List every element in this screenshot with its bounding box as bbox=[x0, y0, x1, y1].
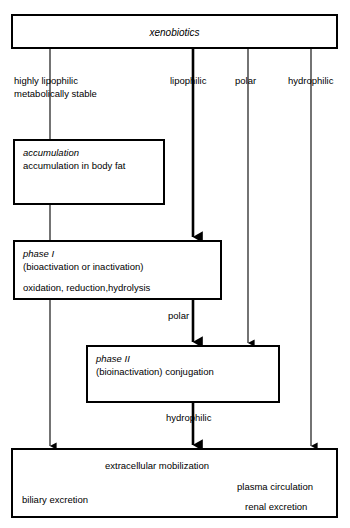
accumulation-box: accumulation accumulation in body fat bbox=[13, 139, 165, 205]
accumulation-heading: accumulation bbox=[23, 147, 155, 160]
xenobiotics-label: xenobiotics bbox=[13, 16, 336, 38]
branch-label-highly-lipophilic-line-2: metabolically stable bbox=[14, 88, 97, 100]
phase-ii-heading: phase II bbox=[96, 353, 270, 366]
renal-excretion-label: renal excretion bbox=[245, 501, 307, 513]
xenobiotics-box: xenobiotics bbox=[11, 14, 338, 49]
phase-i-spacer bbox=[23, 273, 212, 282]
branch-label-highly-lipophilic-line-1: highly lipophilic bbox=[14, 75, 78, 87]
biliary-excretion-label: biliary excretion bbox=[22, 494, 88, 506]
edge-label-polar: polar bbox=[168, 310, 189, 322]
xenobiotics-flow-diagram: xenobiotics accumulation accumulation in… bbox=[0, 0, 350, 528]
phase-i-line-2: oxidation, reduction,hydrolysis bbox=[23, 282, 212, 295]
phase-i-box: phase I (bioactivation or inactivation) … bbox=[13, 240, 222, 300]
phase-i-heading: phase I bbox=[23, 248, 212, 261]
branch-label-lipophilic: lipophilic bbox=[170, 75, 206, 87]
accumulation-line-1: accumulation in body fat bbox=[23, 160, 155, 173]
branch-label-hydrophilic: hydrophilic bbox=[288, 75, 333, 87]
phase-ii-line-1: (bioinactivation) conjugation bbox=[96, 366, 270, 379]
branch-label-polar: polar bbox=[235, 75, 256, 87]
edge-label-hydrophilic: hydrophilic bbox=[166, 412, 211, 424]
extracellular-mobilization-label: extracellular mobilization bbox=[105, 460, 209, 472]
plasma-circulation-label: plasma circulation bbox=[237, 481, 313, 493]
phase-ii-box: phase II (bioinactivation) conjugation bbox=[86, 345, 280, 403]
phase-i-line-1: (bioactivation or inactivation) bbox=[23, 261, 212, 274]
